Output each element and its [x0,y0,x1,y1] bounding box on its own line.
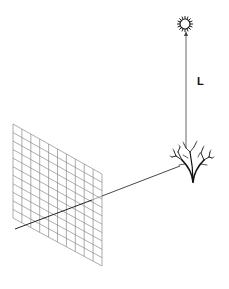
dendritic-tree-icon [170,141,214,182]
vertical-axon [184,31,188,148]
receptive-field-grid [13,124,102,266]
neuron-diagram [0,0,229,289]
distance-label: L [197,76,204,87]
soma-icon [177,16,193,32]
